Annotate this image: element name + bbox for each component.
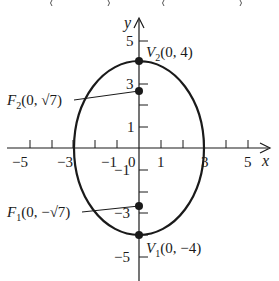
- y-tick-label: 3: [126, 76, 134, 92]
- vertex-v1-dot: [135, 231, 143, 239]
- y-tick-label: 5: [126, 33, 134, 49]
- vertex-v1-label: V1(0, −4): [146, 240, 201, 259]
- focus-f1-label: F1(0, −√7): [6, 204, 70, 223]
- x-tick-label: −5: [12, 154, 28, 170]
- focus-f2-label: F2(0, √7): [6, 92, 62, 111]
- f2-leader-line: [74, 91, 139, 100]
- y-tick-label: −1: [114, 162, 130, 178]
- vertex-v2-label: V2(0, 4): [146, 44, 193, 63]
- y-axis-label: y: [122, 14, 132, 32]
- focus-f2-dot: [135, 87, 143, 95]
- y-tick-label: −3: [114, 205, 130, 221]
- vertex-v2-dot: [135, 57, 143, 65]
- x-tick-label: −3: [57, 154, 73, 170]
- ellipse-diagram: y x −5 −3 −1 0 1 3 5 5 3 1 −1 −3 −5 V2(0…: [0, 0, 279, 281]
- x-tick-label: 5: [244, 154, 252, 170]
- cropped-header-text: [51, 0, 242, 6]
- focus-f1-dot: [135, 202, 143, 210]
- y-tick-label: −5: [114, 249, 130, 265]
- x-tick-label: 3: [201, 154, 209, 170]
- x-axis-label: x: [261, 152, 269, 169]
- y-ticks: [139, 41, 148, 257]
- x-tick-label: 1: [157, 154, 165, 170]
- y-tick-label: 1: [127, 119, 135, 135]
